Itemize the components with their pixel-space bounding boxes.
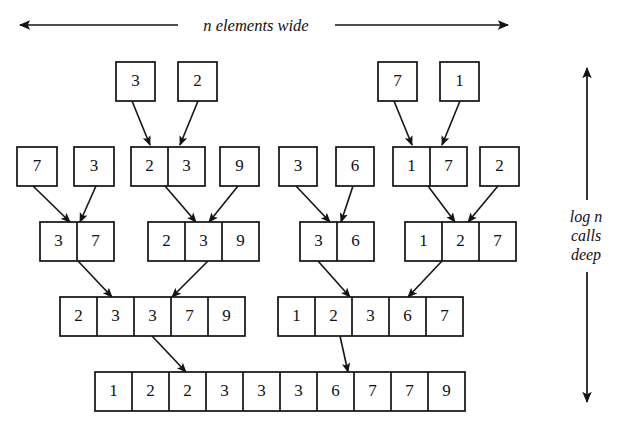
array-group: 1223336779 [95, 372, 465, 411]
array-cell-value: 6 [351, 156, 360, 175]
array-cell-value: 7 [493, 231, 502, 250]
array-cell-value: 9 [235, 156, 244, 175]
array-cell-value: 9 [442, 381, 451, 400]
array-cell-value: 3 [90, 156, 99, 175]
array-group: 3 [74, 147, 114, 186]
merge-arrow [340, 336, 348, 372]
diagram-level-1: 7323936172 [17, 147, 519, 186]
array-cell-value: 1 [455, 71, 464, 90]
array-cell-value: 3 [54, 231, 63, 250]
arrows-level-0-to-1 [132, 101, 460, 145]
array-cell-value: 2 [193, 71, 202, 90]
array-cell-value: 2 [74, 306, 83, 325]
array-group: 1 [440, 62, 479, 101]
array-cell-value: 6 [403, 306, 412, 325]
merge-arrow [209, 186, 238, 222]
diagram-level-2: 3723936127 [40, 222, 516, 261]
array-cell-value: 9 [222, 306, 231, 325]
array-cell-value: 3 [182, 156, 191, 175]
merge-arrow [296, 186, 330, 222]
array-cell-value: 2 [146, 381, 155, 400]
log-n-label-line-1: log n [570, 208, 602, 226]
array-group: 3 [279, 147, 317, 186]
diagram-level-0: 3271 [116, 62, 479, 101]
merge-arrow [33, 186, 70, 222]
array-group: 23 [131, 147, 205, 186]
merge-arrow [152, 336, 186, 372]
merge-arrow [172, 261, 208, 297]
n-elements-wide-label: n elements wide [203, 16, 308, 35]
array-group: 239 [148, 222, 259, 261]
boxes-layer: 3271732393617237239361272337912367122333… [17, 62, 519, 411]
array-group: 36 [300, 222, 374, 261]
array-cell-value: 2 [329, 306, 338, 325]
merge-arrow [341, 186, 353, 222]
array-group: 7 [17, 147, 57, 186]
diagram-level-4: 1223336779 [95, 372, 465, 411]
array-cell-value: 7 [405, 381, 414, 400]
merge-arrow [180, 101, 198, 145]
array-cell-value: 7 [91, 231, 100, 250]
array-cell-value: 3 [199, 231, 208, 250]
merge-arrow [165, 186, 196, 222]
array-cell-value: 3 [294, 156, 303, 175]
merge-arrow [468, 186, 498, 222]
array-cell-value: 7 [393, 71, 402, 90]
diagram-canvas: n elements wide log n calls deep [0, 0, 626, 431]
merge-arrow [394, 101, 412, 145]
array-cell-value: 6 [331, 381, 340, 400]
array-group: 12367 [278, 297, 463, 336]
array-group: 3 [116, 62, 155, 101]
merge-sort-diagram: n elements wide log n calls deep [0, 0, 626, 431]
array-cell-value: 2 [495, 156, 504, 175]
array-cell-value: 2 [456, 231, 465, 250]
array-cell-value: 1 [419, 231, 428, 250]
array-group: 9 [220, 147, 259, 186]
log-n-calls-deep-axis: log n calls deep [570, 68, 602, 402]
array-group: 2 [480, 147, 519, 186]
array-group: 7 [378, 62, 417, 101]
array-cell-value: 7 [368, 381, 377, 400]
array-group: 17 [393, 147, 467, 186]
merge-arrow [132, 101, 150, 145]
merge-arrow [442, 101, 460, 145]
array-cell-value: 1 [109, 381, 118, 400]
array-group: 23379 [60, 297, 245, 336]
array-cell-value: 3 [294, 381, 303, 400]
array-cell-value: 3 [131, 71, 140, 90]
merge-arrow [428, 186, 455, 222]
arrows-level-1-to-2 [33, 186, 498, 222]
merge-arrow [78, 261, 112, 297]
arrows-level-2-to-3 [78, 261, 442, 297]
array-cell-value: 3 [111, 306, 120, 325]
array-cell-value: 7 [440, 306, 449, 325]
array-cell-value: 3 [366, 306, 375, 325]
merge-arrow [408, 261, 442, 297]
array-group: 2 [178, 62, 217, 101]
log-n-label-line-3: deep [571, 246, 601, 264]
array-cell-value: 2 [145, 156, 154, 175]
array-cell-value: 1 [407, 156, 416, 175]
array-cell-value: 2 [183, 381, 192, 400]
array-cell-value: 3 [148, 306, 157, 325]
array-group: 37 [40, 222, 114, 261]
array-cell-value: 7 [185, 306, 194, 325]
array-cell-value: 3 [314, 231, 323, 250]
array-cell-value: 7 [444, 156, 453, 175]
array-cell-value: 3 [220, 381, 229, 400]
merge-arrow [80, 186, 96, 222]
array-group: 127 [405, 222, 516, 261]
array-cell-value: 6 [351, 231, 360, 250]
array-cell-value: 7 [33, 156, 42, 175]
array-cell-value: 2 [162, 231, 171, 250]
diagram-level-3: 2337912367 [60, 297, 463, 336]
array-group: 6 [336, 147, 374, 186]
array-cell-value: 3 [257, 381, 266, 400]
arrows-level-3-to-4 [152, 336, 348, 372]
n-elements-wide-axis: n elements wide [20, 16, 508, 35]
log-n-label-line-2: calls [571, 227, 601, 244]
merge-arrow [318, 261, 350, 297]
array-cell-value: 9 [236, 231, 245, 250]
array-cell-value: 1 [292, 306, 301, 325]
